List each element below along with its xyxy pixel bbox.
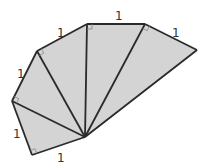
- unit-length-label: 1: [17, 68, 25, 80]
- unit-length-label: 1: [172, 27, 180, 39]
- unit-length-label: 1: [57, 152, 65, 164]
- unit-length-label: 1: [115, 10, 123, 22]
- triangles-group: [12, 24, 197, 155]
- spiral-fill: [12, 24, 197, 155]
- spiral-diagram: [0, 0, 214, 166]
- unit-length-label: 1: [57, 27, 65, 39]
- unit-length-label: 1: [13, 128, 21, 140]
